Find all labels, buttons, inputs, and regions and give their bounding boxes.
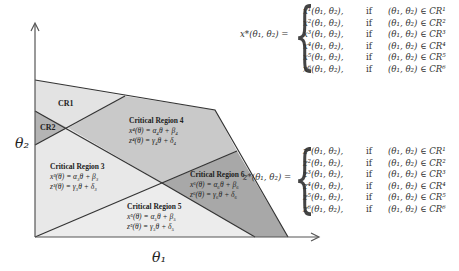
region-text-cr6: Critical Region 6 x⁶(θ) = α₆θ + β₆ z⁶(θ)… xyxy=(189,170,245,199)
svg-text:Critical Region 3: Critical Region 3 xyxy=(50,162,105,171)
svg-text:Critical Region 4: Critical Region 4 xyxy=(129,116,184,125)
region-label-cr2: CR2 xyxy=(40,123,56,132)
region-text-cr5: Critical Region 5 x⁵(θ) = α₅θ + β₅ z⁵(θ)… xyxy=(126,202,182,231)
svg-text:z⁵(θ) = γ₅θ + δ₅: z⁵(θ) = γ₅θ + δ₅ xyxy=(126,222,175,231)
region-text-cr3: Critical Region 3 x³(θ) = α₃θ + β₃ z³(θ)… xyxy=(49,162,105,191)
x-axis-label: θ₁ xyxy=(152,249,166,265)
z-star-piecewise: z*(θ₁, θ₂) = { z¹(θ₁, θ₂),if(θ₁, θ₂) ∈ C… xyxy=(240,140,459,220)
region-text-cr4: Critical Region 4 x⁴(θ) = α₄θ + β₄ z⁴(θ)… xyxy=(128,116,184,145)
svg-text:x⁵(θ) = α₅θ + β₅: x⁵(θ) = α₅θ + β₅ xyxy=(126,212,176,221)
z-star-lhs: z*(θ₁, θ₂) = xyxy=(243,172,291,184)
svg-text:z³(θ) = γ₃θ + δ₃: z³(θ) = γ₃θ + δ₃ xyxy=(49,182,97,191)
y-axis-label: θ₂ xyxy=(15,135,29,151)
x-star-lhs: x*(θ₁, θ₂) = xyxy=(240,29,288,41)
svg-text:z⁶(θ) = γ₆θ + δ₆: z⁶(θ) = γ₆θ + δ₆ xyxy=(189,190,238,199)
region-label-cr1: CR1 xyxy=(58,99,74,108)
svg-text:x⁶(θ) = α₆θ + β₆: x⁶(θ) = α₆θ + β₆ xyxy=(189,180,239,189)
svg-text:x⁴(θ) = α₄θ + β₄: x⁴(θ) = α₄θ + β₄ xyxy=(128,126,178,135)
svg-text:Critical Region 5: Critical Region 5 xyxy=(127,202,182,211)
svg-text:x³(θ) = α₃θ + β₃: x³(θ) = α₃θ + β₃ xyxy=(49,172,99,181)
svg-text:Critical Region 6: Critical Region 6 xyxy=(190,170,245,179)
svg-text:z⁴(θ) = γ₄θ + δ₄: z⁴(θ) = γ₄θ + δ₄ xyxy=(128,136,177,145)
x-star-piecewise: x*(θ₁, θ₂) = { x¹(θ₁, θ₂),if(θ₁, θ₂) ∈ C… xyxy=(240,0,459,80)
